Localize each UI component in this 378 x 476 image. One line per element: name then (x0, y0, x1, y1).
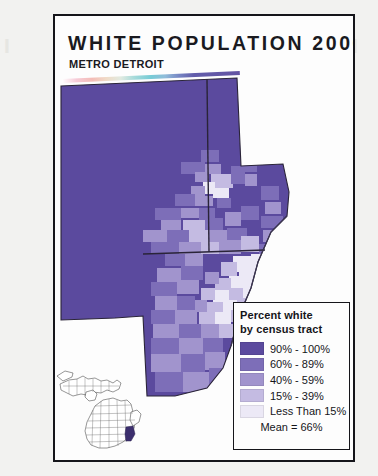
legend-item[interactable]: 15% - 39% (234, 388, 349, 404)
michigan-locator-inset (53, 356, 163, 461)
poster-panel: WHITE POPULATION 2000 METRO DETROIT (53, 14, 355, 462)
legend-item[interactable]: Less Than 15% (234, 403, 349, 419)
inset-highlight-metro-detroit (125, 426, 135, 441)
legend-swatch (240, 342, 264, 355)
legend-item-label: 40% - 59% (270, 374, 324, 386)
legend-title-line1: Percent white (240, 309, 349, 323)
legend-mean-row: Mean = 66% (234, 419, 349, 435)
legend-item-label: 60% - 89% (270, 358, 324, 370)
legend-mean-label: Mean = 66% (260, 421, 322, 433)
legend-item[interactable]: 60% - 89% (234, 357, 349, 373)
legend-swatch (240, 389, 264, 402)
legend-item-label: 15% - 39% (270, 390, 324, 402)
legend-class-list: 90% - 100% 60% - 89% 40% - 59% 15% - 39%… (234, 341, 349, 435)
legend-title-line2: by census tract (240, 323, 349, 337)
legend-swatch (240, 405, 264, 418)
legend-item[interactable]: 40% - 59% (234, 372, 349, 388)
legend-swatch (240, 373, 264, 386)
legend-title: Percent white by census tract (240, 309, 349, 336)
legend-item[interactable]: 90% - 100% (234, 341, 349, 357)
legend-item-label: 90% - 100% (270, 343, 330, 355)
legend-swatch (240, 358, 264, 371)
map-legend: Percent white by census tract 90% - 100%… (233, 302, 350, 450)
legend-item-label: Less Than 15% (270, 405, 346, 417)
ghost-text-left: I (4, 34, 14, 58)
